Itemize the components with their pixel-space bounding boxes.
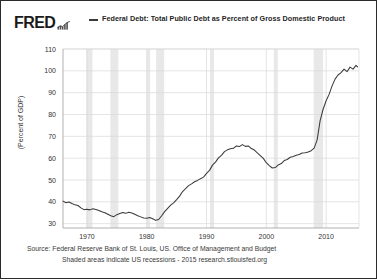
x-tick-label: 1990 xyxy=(199,233,215,240)
y-tick-label: 90 xyxy=(48,89,56,96)
fred-wordmark: FRED xyxy=(14,15,55,31)
x-tick-label: 2010 xyxy=(318,233,334,240)
legend-series-label: Federal Debt: Total Public Debt as Perce… xyxy=(102,14,345,24)
legend-line-swatch xyxy=(89,19,98,21)
x-tick-label: 1970 xyxy=(79,233,95,240)
mini-bar-chart-icon xyxy=(57,21,70,30)
chart-svg: 3040506070809010011019701980199020002010 xyxy=(1,41,377,241)
recession-band xyxy=(210,49,214,228)
chart-plot-area: (Percent of GDP) 30405060708090100110197… xyxy=(1,41,377,241)
y-tick-label: 30 xyxy=(48,220,56,227)
y-tick-label: 50 xyxy=(48,177,56,184)
chart-legend: Federal Debt: Total Public Debt as Perce… xyxy=(89,14,364,24)
y-tick-label: 100 xyxy=(44,67,56,74)
x-tick-label: 2000 xyxy=(259,233,275,240)
fred-chart-card: FRED Federal Debt: Total Public Debt as … xyxy=(0,0,377,279)
recession-note-line: Shaded areas indicate US recessions - 20… xyxy=(62,256,267,263)
recession-band xyxy=(86,49,92,228)
chart-header: FRED Federal Debt: Total Public Debt as … xyxy=(1,1,377,41)
x-tick-label: 1980 xyxy=(139,233,155,240)
recession-band xyxy=(110,49,118,228)
source-line: Source: Federal Reserve Bank of St. Loui… xyxy=(27,245,276,252)
recession-band xyxy=(147,49,150,228)
y-tick-label: 40 xyxy=(48,198,56,205)
recession-band xyxy=(274,49,278,228)
recession-band xyxy=(156,49,164,228)
y-tick-label: 70 xyxy=(48,133,56,140)
recession-band xyxy=(314,49,323,228)
y-tick-label: 60 xyxy=(48,155,56,162)
y-tick-label: 80 xyxy=(48,111,56,118)
fred-logo: FRED xyxy=(14,15,70,31)
y-tick-label: 110 xyxy=(45,46,56,53)
